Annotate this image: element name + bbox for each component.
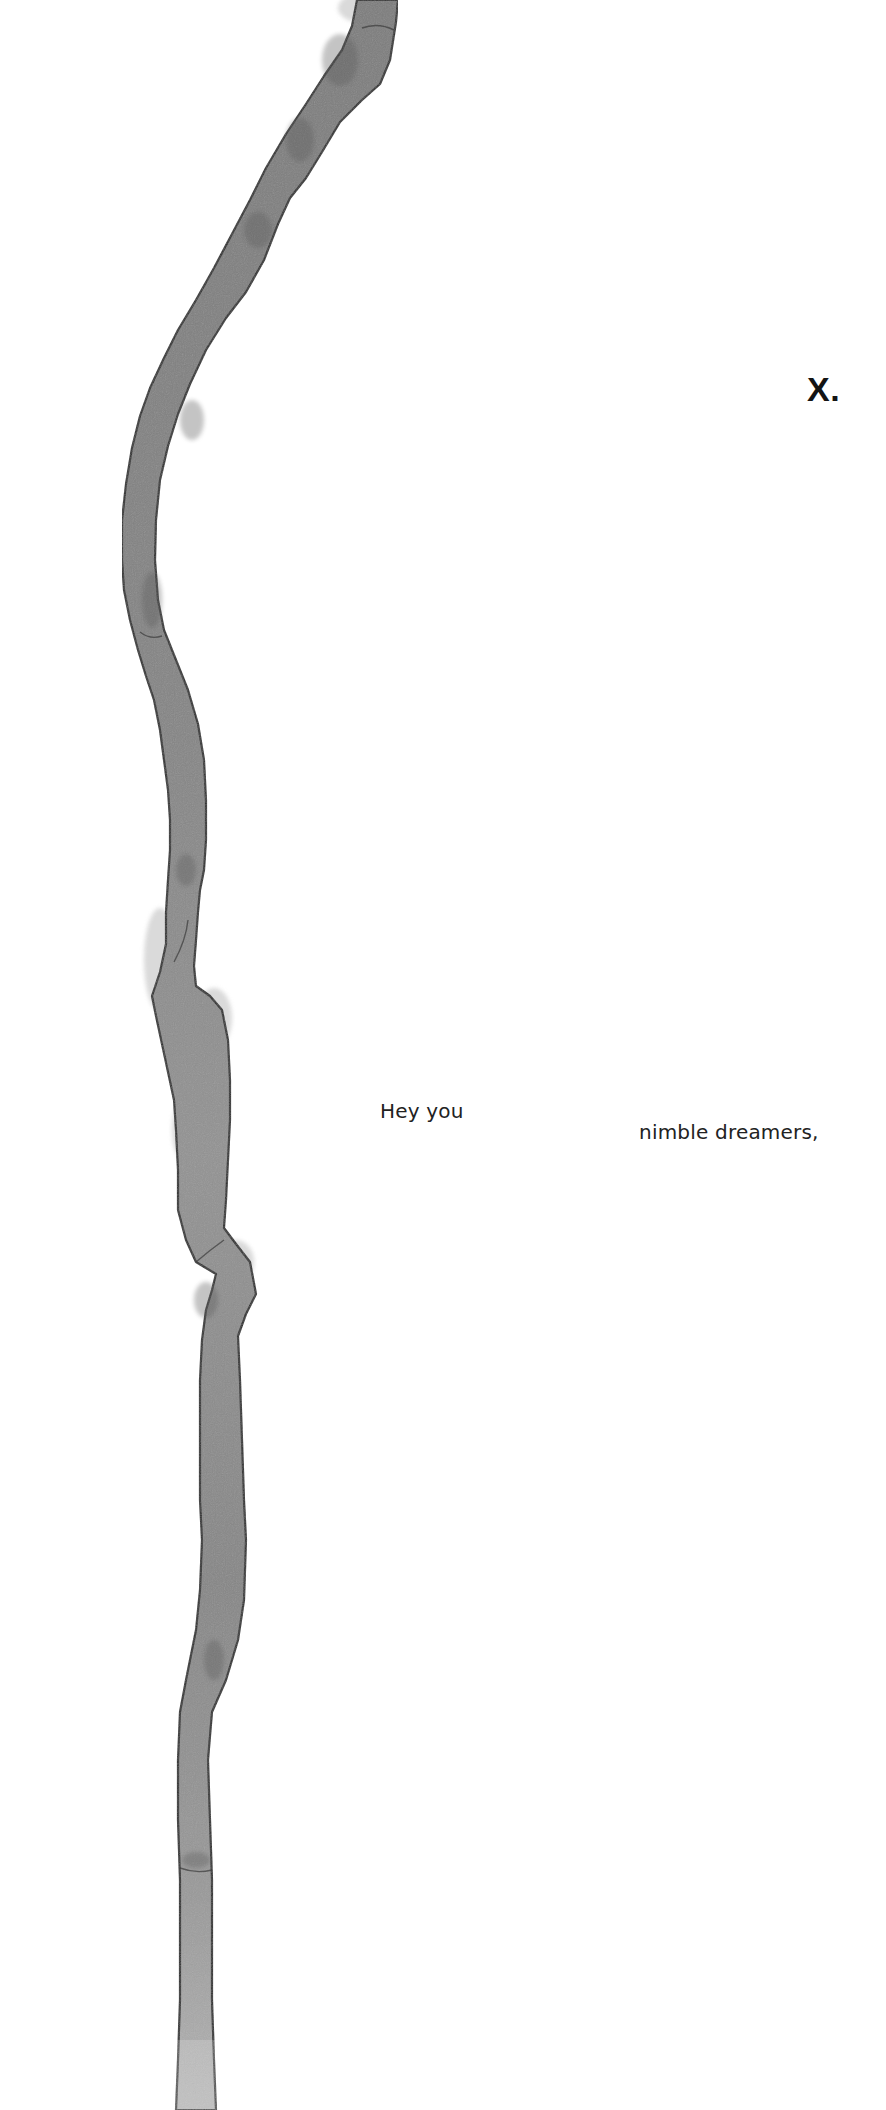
ink-halo: [144, 0, 382, 1284]
ink-mottle: [142, 34, 358, 1868]
intro-line-1: Hey you: [380, 1101, 464, 1121]
ink-stroke-icon: [0, 0, 886, 2110]
ink-tide-lines: [140, 25, 394, 1871]
brand-logo-link[interactable]: X.: [807, 372, 840, 406]
ink-fade: [170, 2040, 222, 2110]
ink-stroke-body: [122, 0, 398, 2110]
intro-line-2: nimble dreamers,: [639, 1122, 819, 1142]
